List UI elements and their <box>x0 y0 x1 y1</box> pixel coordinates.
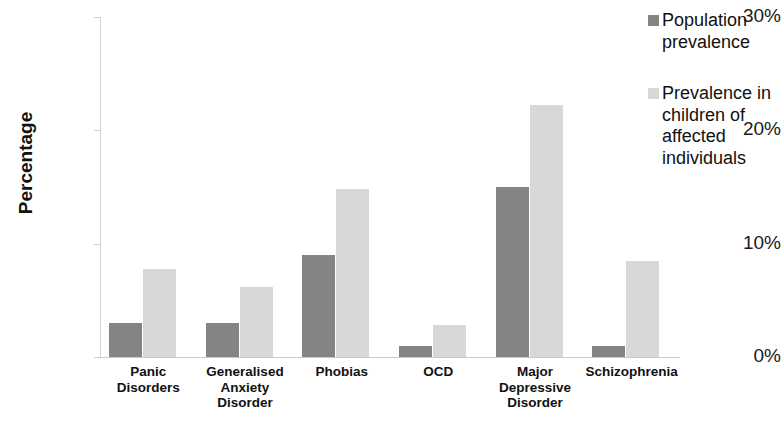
x-axis-category-label-line: Schizophrenia <box>562 364 702 380</box>
legend-label-line: individuals <box>662 148 771 170</box>
y-axis-tick-label: 10% <box>703 233 781 252</box>
x-axis-category-label: Schizophrenia <box>562 364 702 380</box>
bar <box>109 323 142 357</box>
legend-label-line: Population <box>662 10 750 32</box>
bar-chart: Percentage 0%10%20%30% PanicDisordersGen… <box>0 0 781 424</box>
legend-entry[interactable]: Populationprevalence <box>648 10 781 53</box>
legend-swatch-icon <box>648 88 659 99</box>
bar <box>143 269 176 357</box>
x-axis-category-label-line: Disorder <box>175 395 315 411</box>
bar <box>626 261 659 357</box>
legend: PopulationprevalencePrevalence inchildre… <box>648 10 781 199</box>
bar <box>336 189 369 357</box>
x-axis-category-label-line: Disorder <box>465 395 605 411</box>
bar <box>496 187 529 357</box>
legend-label-line: prevalence <box>662 32 750 54</box>
legend-entry[interactable]: Prevalence inchildren ofaffectedindividu… <box>648 83 781 169</box>
legend-label: Prevalence inchildren ofaffectedindividu… <box>662 83 771 169</box>
bar <box>592 346 625 357</box>
x-axis-category-label-line: Depressive <box>465 380 605 396</box>
legend-swatch-icon <box>648 15 659 26</box>
y-axis-tick-label: 0% <box>703 346 781 365</box>
bar <box>433 325 466 357</box>
x-axis-category-label-line: Anxiety <box>175 380 315 396</box>
y-axis-title: Percentage <box>15 93 37 233</box>
legend-label-line: children of <box>662 105 771 127</box>
legend-label-line: affected <box>662 126 771 148</box>
x-axis-line <box>100 357 680 358</box>
bars-layer <box>100 17 680 357</box>
bar <box>530 105 563 357</box>
bar <box>240 287 273 357</box>
bar <box>302 255 335 357</box>
bar <box>206 323 239 357</box>
bar <box>399 346 432 357</box>
legend-label: Populationprevalence <box>662 10 750 53</box>
legend-label-line: Prevalence in <box>662 83 771 105</box>
